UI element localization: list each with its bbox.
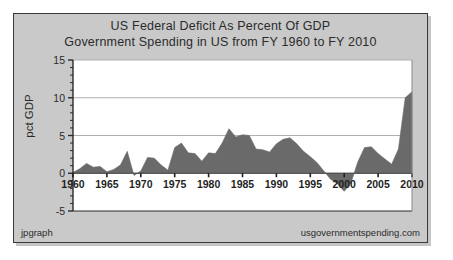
svg-text:1970: 1970 [129,178,153,190]
svg-text:-5: -5 [56,205,65,217]
svg-text:5: 5 [59,130,65,142]
page-top-margin [0,0,453,12]
svg-text:1985: 1985 [231,178,255,190]
svg-text:1965: 1965 [95,178,119,190]
svg-text:1960: 1960 [61,178,85,190]
svg-text:1990: 1990 [265,178,289,190]
svg-text:1995: 1995 [299,178,323,190]
svg-text:10: 10 [53,92,65,104]
svg-text:1975: 1975 [163,178,187,190]
chart-credit-left: jpgraph [21,227,53,238]
svg-text:15: 15 [53,54,65,66]
svg-text:1980: 1980 [197,178,221,190]
chart-source-right: usgovernmentspending.com [301,227,420,238]
chart-panel: US Federal Deficit As Percent Of GDP Gov… [13,13,428,243]
svg-text:2005: 2005 [366,178,390,190]
chart-plot-area: -505101519601965197019751980198519901995… [14,14,429,244]
svg-text:2000: 2000 [333,178,357,190]
